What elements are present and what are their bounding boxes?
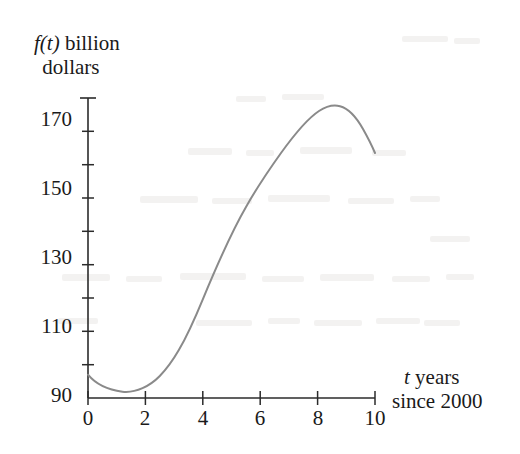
function-graph-figure: f(t) billion dollars t years since 2000 … xyxy=(0,0,520,454)
x-tick-label-2: 2 xyxy=(125,407,165,431)
y-tick-label-170: 170 xyxy=(18,108,72,132)
x-tick-label-6: 6 xyxy=(240,407,280,431)
x-tick-label-10: 10 xyxy=(355,407,395,431)
x-tick-label-0: 0 xyxy=(68,407,108,431)
x-tick-label-8: 8 xyxy=(298,407,338,431)
y-tick-label-150: 150 xyxy=(18,177,72,201)
x-axis-title-line2: since 2000 xyxy=(392,390,482,414)
y-axis-title-line2: dollars xyxy=(34,56,120,80)
y-tick-label-110: 110 xyxy=(18,315,72,339)
y-tick-label-90: 90 xyxy=(18,384,72,408)
y-tick-label-130: 130 xyxy=(18,246,72,270)
x-tick-label-4: 4 xyxy=(183,407,223,431)
function-curve xyxy=(88,106,375,392)
x-axis-title-unit: years xyxy=(410,365,460,389)
y-axis-title-variable: f(t) xyxy=(34,31,60,55)
x-axis-title: t years since 2000 xyxy=(404,366,482,413)
y-axis-title-unit: billion xyxy=(60,31,120,55)
y-axis-title: f(t) billion dollars xyxy=(34,32,120,79)
